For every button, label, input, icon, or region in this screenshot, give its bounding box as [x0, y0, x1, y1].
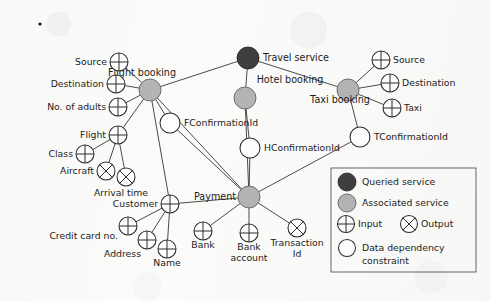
service-dependency-graph: Travel serviceFlight bookingHotel bookin… [0, 0, 490, 301]
service-label-travel: Travel service [262, 52, 329, 63]
edge-payment-to-p_trans [258, 203, 289, 223]
service-label-payment: Payment [194, 191, 236, 202]
edge-f_flight-to-f_arrival [120, 144, 125, 168]
constraint-node-fconf[interactable] [160, 113, 180, 133]
legend-label-output: Output [421, 218, 454, 229]
parameter-label-f_adults: No. of adults [47, 101, 106, 112]
constraint-label-hconf: HConfirmationId [264, 142, 340, 153]
service-label-taxi: Taxi booking [309, 94, 370, 105]
service-node-travel[interactable] [237, 47, 259, 69]
diagram-canvas: Travel serviceFlight bookingHotel bookin… [0, 0, 490, 301]
legend: Queried serviceAssociated serviceInputOu… [331, 168, 476, 272]
constraint-label-fconf: FConfirmationId [184, 117, 258, 128]
constraint-node-tconf[interactable] [350, 127, 370, 147]
edge-flight-to-f_adults [126, 95, 140, 103]
service-node-flight[interactable] [139, 79, 161, 101]
parameter-label-customer: Customer [113, 198, 158, 209]
parameter-label-name: Name [153, 257, 181, 268]
parameter-label-p_account: Bankaccount [230, 241, 267, 263]
legend-swatch-associated [338, 194, 356, 212]
edge-customer-to-name [168, 213, 170, 240]
edge-f_flight-to-f_aircraft [109, 144, 115, 163]
legend-label-associated: Associated service [362, 197, 449, 208]
edge-taxi-to-t_source [356, 66, 374, 83]
edge-f_flight-to-f_class [93, 139, 110, 149]
scan-speck [38, 22, 41, 25]
constraint-label-tconf: TConfirmationId [373, 131, 448, 142]
parameter-label-p_bank: Bank [191, 239, 215, 250]
parameter-label-f_aircraft: Aircraft [60, 165, 94, 176]
constraint-node-layer: FConfirmationIdHConfirmationIdTConfirmat… [160, 113, 448, 158]
edge-payment-to-p_bank [210, 204, 240, 226]
parameter-label-f_class: Class [49, 148, 74, 159]
parameter-label-t_source: Source [393, 54, 425, 65]
legend-label-constraint-line2: constraint [362, 255, 409, 266]
parameter-label-t_taxi: Taxi [403, 102, 422, 113]
legend-swatch-constraint [339, 240, 356, 257]
parameter-node-layer: SourceDestinationNo. of adultsFlightClas… [47, 51, 455, 268]
service-node-hotel[interactable] [234, 87, 256, 109]
edge-customer-to-address [152, 212, 165, 233]
legend-label-input: Input [358, 218, 382, 229]
edge-customer-to-credit_card [136, 208, 162, 222]
edge-travel-to-hotel [246, 69, 247, 87]
parameter-label-address: Address [104, 248, 141, 259]
service-node-payment[interactable] [238, 186, 260, 208]
legend-swatch-queried [338, 173, 356, 191]
parameter-label-credit_card: Credit card no. [49, 230, 118, 241]
edge-fconf-to-payment [177, 130, 241, 190]
legend-label-constraint: Data dependency [362, 242, 445, 253]
edge-flight-to-f_dest [125, 86, 139, 89]
parameter-label-f_arrival: Arrival time [94, 187, 148, 198]
service-label-hotel: Hotel booking [257, 74, 324, 85]
legend-label-queried: Queried service [362, 176, 435, 187]
parameter-label-f_dest: Destination [51, 78, 104, 89]
parameter-label-f_flight: Flight [80, 129, 106, 140]
parameter-label-p_trans: TransactionId [269, 237, 323, 259]
parameter-label-f_source: Source [75, 56, 107, 67]
edge-taxi-to-t_dest [359, 84, 381, 88]
parameter-label-t_dest: Destination [402, 77, 455, 88]
edge-hconf-to-payment [249, 158, 250, 186]
edge-flight-to-payment [157, 98, 241, 189]
constraint-node-hconf[interactable] [240, 138, 260, 158]
